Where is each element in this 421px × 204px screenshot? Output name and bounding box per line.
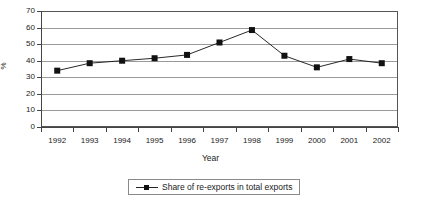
- y-axis-title: %: [0, 54, 8, 78]
- x-axis-line: [41, 127, 399, 128]
- x-axis-tick: [236, 128, 237, 132]
- gridline: [42, 61, 397, 62]
- x-axis-tick: [138, 128, 139, 132]
- x-axis-tick: [333, 128, 334, 132]
- x-axis-tick: [398, 128, 399, 132]
- y-axis-tick: [37, 11, 41, 12]
- y-axis-tick: [37, 77, 41, 78]
- legend-item-share-of-re-exports: Share of re-exports in total exports: [136, 183, 292, 192]
- y-axis-tick-label: 0: [13, 123, 35, 131]
- y-axis-tick-label: 70: [13, 7, 35, 15]
- gridline: [42, 94, 397, 95]
- x-axis-tick: [366, 128, 367, 132]
- x-axis-tick: [171, 128, 172, 132]
- y-axis-tick-label: 60: [13, 24, 35, 32]
- x-axis-tick: [73, 128, 74, 132]
- y-axis-tick: [37, 28, 41, 29]
- x-axis-tick: [268, 128, 269, 132]
- plot-area: [41, 11, 398, 127]
- x-axis-tick: [203, 128, 204, 132]
- y-axis-tick: [37, 44, 41, 45]
- chart-legend: Share of re-exports in total exports: [128, 179, 300, 195]
- legend-item-label: Share of re-exports in total exports: [162, 183, 292, 192]
- y-axis-tick: [37, 61, 41, 62]
- y-axis-tick-label: 40: [13, 57, 35, 65]
- gridline: [42, 77, 397, 78]
- x-axis-tick-label: 2002: [362, 136, 402, 145]
- y-axis-tick: [37, 110, 41, 111]
- y-axis-tick-label: 30: [13, 73, 35, 81]
- x-axis-tick: [106, 128, 107, 132]
- x-axis-tick: [301, 128, 302, 132]
- chart-figure: 010203040506070 % 1992199319941995199619…: [0, 0, 421, 204]
- gridline: [42, 28, 397, 29]
- x-axis-tick: [41, 128, 42, 132]
- legend-line-marker-icon: [136, 183, 158, 192]
- gridline: [42, 110, 397, 111]
- x-axis-title: Year: [0, 154, 421, 163]
- y-axis-tick: [37, 94, 41, 95]
- y-axis-tick-labels: 010203040506070: [10, 0, 35, 204]
- gridline: [42, 44, 397, 45]
- y-axis-line: [41, 11, 42, 128]
- y-axis-tick-label: 20: [13, 90, 35, 98]
- y-axis-tick-label: 10: [13, 106, 35, 114]
- y-axis-tick-label: 50: [13, 40, 35, 48]
